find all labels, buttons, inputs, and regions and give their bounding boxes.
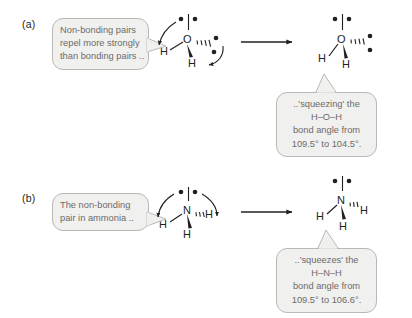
lone-pair-dot	[212, 50, 217, 55]
lone-pair-dot	[214, 36, 219, 41]
molecule-ammonia-left	[158, 187, 217, 228]
repulsion-arrow-left	[159, 22, 176, 45]
lone-pair-dot	[368, 34, 373, 39]
lone-pair-dot	[347, 17, 352, 22]
callout-tail-a-result	[316, 74, 336, 92]
lone-pair-dot	[193, 17, 198, 22]
callout-tail-a	[147, 38, 166, 52]
molecule-ammonia-right	[327, 176, 358, 219]
sigma-bond	[327, 205, 337, 214]
lone-pair-dot	[179, 190, 184, 195]
repulsion-arrow-left	[158, 194, 174, 217]
sigma-bond	[170, 42, 183, 50]
repulsion-arrow-right	[202, 194, 217, 216]
solid-wedge-bond	[341, 205, 346, 219]
sigma-bond	[170, 214, 182, 222]
lone-pair-dot	[333, 179, 338, 184]
lone-pair-dot	[179, 17, 184, 22]
callout-tail-b-result	[318, 230, 338, 248]
lone-pair-dot	[193, 190, 198, 195]
solid-wedge-bond	[187, 44, 193, 58]
molecule-water-right	[329, 14, 372, 58]
molecule-drawing-layer	[0, 0, 412, 318]
solid-wedge-bond	[187, 214, 192, 228]
repulsion-arrow-right	[209, 46, 223, 65]
lone-pair-dot	[368, 48, 373, 53]
lone-pair-dot	[347, 179, 352, 184]
sigma-bond	[329, 44, 338, 56]
hashed-wedge-bond	[350, 202, 358, 207]
hashed-wedge-bond	[197, 40, 211, 47]
lone-pair-dot	[333, 17, 338, 22]
hashed-wedge-bond	[196, 212, 204, 217]
hashed-wedge-bond	[351, 38, 364, 44]
vsepr-figure: (a) (b) Non-bonding pairs repel more str…	[0, 0, 412, 318]
solid-wedge-bond	[343, 44, 348, 58]
molecule-water-left	[159, 14, 223, 65]
callout-tail-b	[147, 212, 166, 226]
